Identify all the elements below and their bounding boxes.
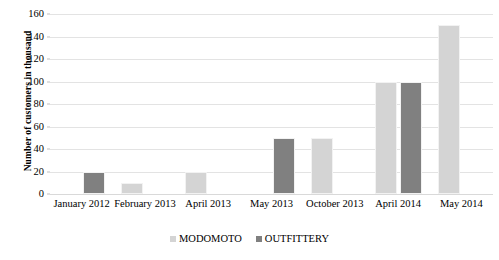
x-tick-label: May 2013: [240, 198, 303, 210]
bar-modomoto: [185, 172, 207, 195]
y-tick-label: 20: [4, 166, 44, 177]
bar-empty-outfittery: [336, 192, 358, 194]
legend-item[interactable]: MODOMOTO: [170, 234, 242, 245]
bar-empty-outfittery: [463, 192, 485, 194]
square-swatch-icon: [170, 236, 176, 242]
x-tick-label: April 2013: [177, 198, 240, 210]
bar-modomoto: [311, 138, 333, 194]
gridline: [50, 194, 493, 195]
legend-item[interactable]: OUTFITTERY: [256, 234, 329, 245]
y-tick-label: 60: [4, 121, 44, 132]
square-swatch-icon: [256, 236, 262, 242]
y-tick-label: 100: [4, 76, 44, 87]
y-tick-label: 40: [4, 144, 44, 155]
bar-modomoto: [375, 82, 397, 195]
bar-outfittery: [273, 138, 295, 194]
bar-empty-modomoto: [58, 192, 80, 194]
x-tick-label: October 2013: [303, 198, 366, 210]
bar-group: [177, 14, 240, 194]
x-tick-label: February 2013: [113, 198, 176, 210]
legend-label: MODOMOTO: [179, 234, 242, 245]
plot-area: 160140120100806040200: [50, 14, 493, 194]
x-tick-label: April 2014: [366, 198, 429, 210]
bar-chart: Number of customers in thousand 16014012…: [0, 0, 499, 260]
x-axis-labels: January 2012February 2013April 2013May 2…: [50, 198, 493, 232]
x-tick-label: January 2012: [50, 198, 113, 210]
y-tick-label: 140: [4, 31, 44, 42]
bar-empty-outfittery: [210, 192, 232, 194]
legend-label: OUTFITTERY: [265, 234, 329, 245]
y-tick-label: 160: [4, 9, 44, 20]
chart-legend: MODOMOTOOUTFITTERY: [0, 234, 499, 245]
bar-group: [240, 14, 303, 194]
y-tick-label: 80: [4, 99, 44, 110]
y-tick-label: 120: [4, 54, 44, 65]
x-tick-label: May 2014: [430, 198, 493, 210]
bar-group: [50, 14, 113, 194]
bar-modomoto: [438, 25, 460, 194]
bar-group: [430, 14, 493, 194]
bar-outfittery: [400, 82, 422, 195]
bar-group: [113, 14, 176, 194]
bar-empty-outfittery: [146, 192, 168, 194]
bar-empty-modomoto: [248, 192, 270, 194]
bar-outfittery: [83, 172, 105, 195]
bar-group: [366, 14, 429, 194]
bar-modomoto: [121, 183, 143, 194]
bar-group: [303, 14, 366, 194]
y-tick-label: 0: [4, 189, 44, 200]
